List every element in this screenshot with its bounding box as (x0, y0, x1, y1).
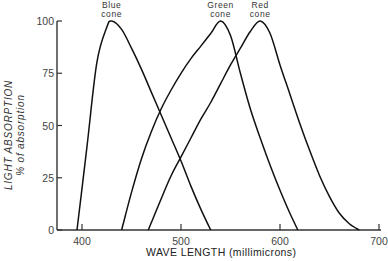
blue-cone-label: cone (101, 9, 122, 19)
y-axis-title: LIGHT ABSORPTION (3, 80, 14, 190)
y-tick-label: 100 (36, 15, 54, 27)
green-cone-label: cone (210, 9, 231, 19)
y-tick-label: 50 (42, 120, 54, 132)
curve-labels: BlueconeGreenconeRedcone (101, 0, 270, 19)
y-axis-subtitle: % of absorption (15, 94, 26, 176)
y-tick-label: 0 (48, 224, 54, 236)
x-tick-label: 700 (370, 235, 388, 247)
y-tick-label: 75 (42, 67, 54, 79)
x-tick-label: 400 (73, 235, 91, 247)
blue-cone-curve (77, 21, 211, 230)
red-cone-label: cone (250, 9, 271, 19)
curves (77, 21, 359, 230)
absorption-chart: 0255075100400500600700 BlueconeGreencone… (0, 0, 388, 261)
x-axis-title: WAVE LENGTH (millimicrons) (146, 246, 296, 258)
red-cone-curve (148, 21, 359, 230)
y-tick-label: 25 (42, 172, 54, 184)
green-cone-curve (122, 21, 298, 230)
